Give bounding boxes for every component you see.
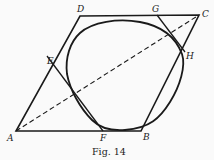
label-c: C [202,10,209,19]
convex-curve [67,20,184,130]
figure-caption: Fig. 14 [92,146,126,157]
label-b: B [143,133,150,142]
tangent-gh [157,15,185,52]
label-g: G [152,5,159,14]
tangent-ef [47,56,103,131]
figure-diagram [0,0,214,160]
diagonal-ac [16,15,199,131]
label-a: A [7,134,14,143]
label-f: F [100,134,106,143]
label-e: E [47,57,54,66]
label-d: D [77,5,84,14]
label-h: H [186,52,194,61]
